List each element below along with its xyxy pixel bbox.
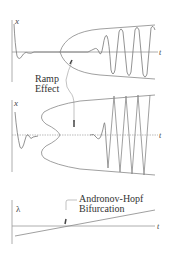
top-y-axis-label: x [14, 16, 19, 26]
middle-t-axis-label: t [159, 131, 162, 140]
ramp-effect-leader [66, 62, 74, 122]
top-envelope-lower [60, 52, 155, 79]
middle-panel [12, 95, 158, 175]
bottom-y-axis-label: λ [16, 204, 21, 214]
middle-envelope-lower [41, 135, 155, 175]
hopf-leader [66, 200, 77, 210]
middle-oscillation-curve [108, 95, 150, 175]
hopf-arrow [65, 219, 66, 224]
ramp-effect-label-line2: Effect [35, 84, 59, 94]
top-panel [12, 20, 158, 82]
middle-transient-curve [15, 112, 38, 148]
middle-envelope-upper [41, 95, 155, 135]
hopf-label-line2: Bifurcation [79, 204, 125, 214]
middle-y-axis-label: x [13, 98, 18, 108]
top-t-axis-label: t [159, 48, 162, 57]
top-transient-curve [14, 24, 103, 59]
diagram-canvas: x t x t λ t [0, 0, 172, 254]
middle-delayed-curve [90, 123, 108, 168]
bottom-t-axis-label: t [157, 222, 160, 231]
